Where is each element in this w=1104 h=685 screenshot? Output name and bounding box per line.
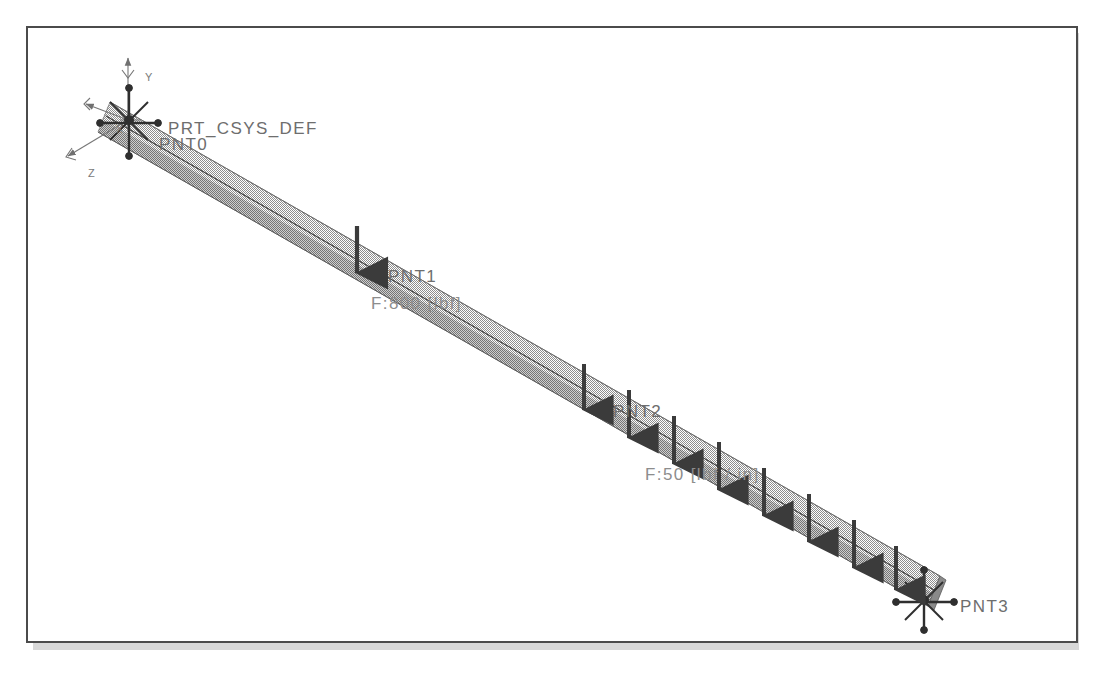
axis-label-x: X (116, 124, 123, 135)
point-label-pnt2[interactable]: PNT2 (613, 403, 662, 420)
axis-label-z: Z (88, 168, 95, 179)
point-label-pnt0[interactable]: PNT0 (159, 136, 208, 153)
axis-label-y: Y (145, 72, 152, 83)
point-label-pnt1[interactable]: PNT1 (388, 268, 437, 285)
force-label-pnt2[interactable]: F:50 [lbf / in] (645, 466, 760, 483)
point-label-pnt3[interactable]: PNT3 (960, 598, 1009, 615)
application-window: PRT_CSYS_DEF PNT0 PNT1 F:800 [lbf] PNT2 … (0, 0, 1104, 685)
beam-body (98, 102, 946, 610)
force-label-pnt1[interactable]: F:800 [lbf] (371, 295, 462, 312)
graphics-window[interactable]: PRT_CSYS_DEF PNT0 PNT1 F:800 [lbf] PNT2 … (26, 26, 1078, 643)
